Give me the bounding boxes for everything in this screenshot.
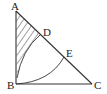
arc-be xyxy=(16,57,64,84)
geometry-figure xyxy=(0,0,107,94)
label-e: E xyxy=(66,48,73,59)
label-a: A xyxy=(11,1,19,12)
label-d: D xyxy=(43,27,51,38)
label-c: C xyxy=(94,80,101,91)
label-b: B xyxy=(7,80,14,91)
